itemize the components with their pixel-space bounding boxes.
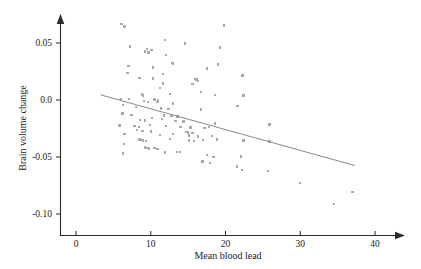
data-point [214,94,216,96]
data-point [130,114,132,116]
data-point [211,135,213,137]
data-point [223,24,225,26]
data-point [241,169,243,171]
data-point [193,140,195,142]
data-point [242,94,244,96]
y-axis-label: Brain volume change [17,85,28,171]
data-point [172,133,174,135]
data-point [150,49,152,51]
data-point [118,124,120,126]
x-tick-label: 10 [146,239,156,249]
data-point [143,100,145,102]
data-point [203,127,205,129]
data-point [138,77,140,79]
y-tick-label: 0.0 [40,95,52,105]
data-point [135,106,137,108]
data-point [126,72,128,74]
y-tick-label: 0.05 [35,38,52,48]
data-point [169,138,171,140]
data-point [120,23,122,25]
data-point [191,132,193,134]
data-point [161,118,163,120]
y-tick-label: -0.05 [32,152,52,162]
data-point [162,82,164,84]
data-point [164,151,166,153]
data-point [201,160,203,162]
data-point [148,147,150,149]
data-point [351,191,353,193]
x-tick-label: 40 [370,239,380,249]
data-point [236,165,238,167]
data-point [146,48,148,50]
data-point [209,162,211,164]
data-point [159,134,161,136]
data-point [219,46,221,48]
data-point [147,51,149,53]
data-point [128,98,130,100]
data-point [187,131,189,133]
y-axis-ticks: 0.050.0-0.05-0.10 [32,38,61,219]
data-point [120,98,122,100]
scatter-points-group [118,23,354,205]
data-point [172,102,174,104]
data-point [179,126,181,128]
data-point [147,101,149,103]
data-point [144,146,146,148]
data-point [236,105,238,107]
x-axis-ticks: 010203040 [74,231,380,249]
data-point [164,39,166,41]
data-point [163,114,165,116]
plot-canvas: 0.050.0-0.05-0.10 010203040 Mean blood l… [0,0,421,269]
data-point [142,139,144,141]
data-point [176,151,178,153]
data-point [156,101,158,103]
data-point [149,124,151,126]
data-point [197,80,199,82]
data-point [191,83,193,85]
data-point [152,77,154,79]
data-point [160,107,162,109]
scatter-plot-figure: 0.050.0-0.05-0.10 010203040 Mean blood l… [0,0,421,269]
data-point [165,54,167,56]
data-point [240,155,242,157]
data-point [179,151,181,153]
data-point [172,62,174,64]
data-point [144,119,146,121]
data-point [202,139,204,141]
x-tick-label: 30 [296,239,306,249]
data-point [197,135,199,137]
data-point [200,91,202,93]
data-point [206,154,208,156]
regression-line [101,95,355,166]
y-tick-label: -0.10 [32,209,52,219]
y-axis-arrowhead [57,14,65,24]
data-point [123,25,125,27]
data-point [216,138,218,140]
data-point [159,87,161,89]
data-point [182,120,184,122]
x-tick-label: 20 [221,239,231,249]
y-axis: 0.050.0-0.05-0.10 [32,14,64,236]
data-point [129,45,131,47]
data-point [267,170,269,172]
data-point [165,125,167,127]
data-point [241,74,243,76]
data-point [136,129,138,131]
data-point [153,98,155,100]
data-point [133,125,135,127]
data-point [146,147,148,149]
data-point [268,123,270,125]
data-point [127,65,129,67]
data-point [167,108,169,110]
data-point [188,139,190,141]
data-point [189,126,191,128]
data-point [242,139,244,141]
data-point [162,73,164,75]
x-axis-arrowhead [395,232,405,240]
data-point [156,148,158,150]
regression-line-group [101,95,355,166]
data-point [200,108,202,110]
data-point [152,66,154,68]
data-point [123,143,125,145]
data-point [122,152,124,154]
